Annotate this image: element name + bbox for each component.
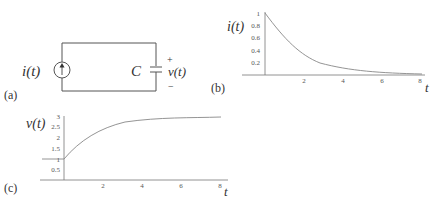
panel-b-label: (b) (211, 81, 225, 95)
svg-text:0.8: 0.8 (251, 22, 260, 30)
svg-text:3: 3 (57, 113, 61, 121)
top-wire (62, 43, 156, 66)
svg-text:4: 4 (341, 77, 345, 85)
svg-text:4: 4 (140, 182, 144, 190)
svg-text:6: 6 (179, 182, 183, 190)
y-axis-label: v(t) (26, 116, 46, 132)
svg-text:1.5: 1.5 (51, 145, 60, 153)
svg-text:2: 2 (302, 77, 306, 85)
svg-text:1: 1 (257, 10, 261, 18)
chart-b: 1 0.8 0.6 0.4 0.2 2 4 6 8 i(t) t (b) (211, 10, 429, 95)
svg-text:8: 8 (218, 182, 222, 190)
circuit-diagram (54, 43, 162, 91)
source-label: i(t) (22, 63, 40, 80)
current-curve (265, 13, 422, 74)
voltage-label: v(t) (168, 64, 186, 79)
arrow-head-icon (60, 63, 65, 68)
svg-text:2: 2 (57, 134, 61, 142)
bottom-wire (62, 72, 156, 91)
svg-text:8: 8 (418, 77, 422, 85)
x-axis-label: t (224, 184, 228, 199)
x-axis-label: t (425, 80, 429, 95)
svg-text:6: 6 (380, 77, 384, 85)
svg-text:0.4: 0.4 (251, 47, 260, 55)
svg-text:2: 2 (101, 182, 105, 190)
minus-sign: − (168, 81, 174, 92)
svg-text:2.5: 2.5 (51, 123, 60, 131)
y-axis-label: i(t) (227, 19, 244, 35)
svg-text:0.6: 0.6 (251, 34, 260, 42)
svg-text:0.2: 0.2 (251, 59, 260, 67)
panel-c-label: (c) (4, 181, 17, 195)
svg-text:1: 1 (57, 156, 61, 164)
voltage-curve (42, 117, 221, 159)
panel-a-label: (a) (4, 88, 17, 102)
chart-c: 3 2.5 2 1.5 1 0.5 2 4 6 8 v(t) t (c) (4, 113, 228, 199)
svg-text:0.5: 0.5 (51, 166, 60, 174)
figure: i(t) (a) C + v(t) − 1 0.8 0.6 0.4 0.2 2 … (0, 0, 441, 210)
capacitor-label: C (131, 63, 142, 79)
